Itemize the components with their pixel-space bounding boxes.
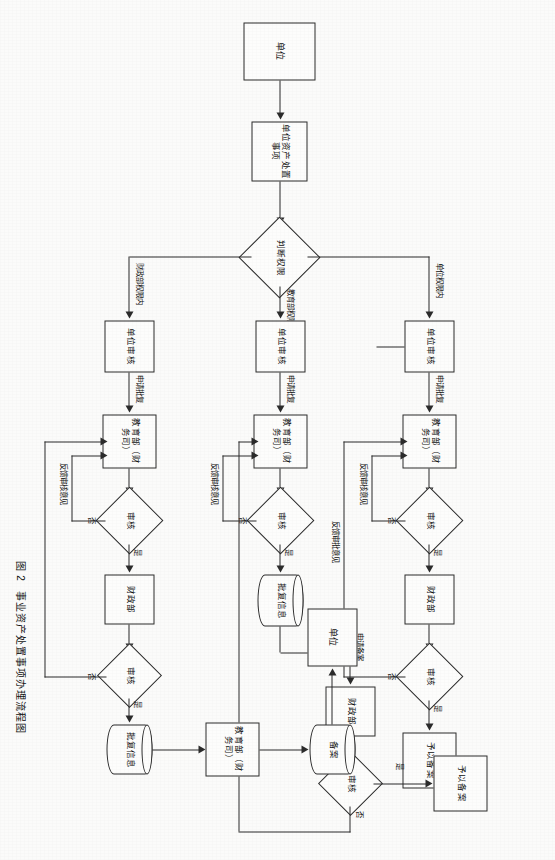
row1-feedback-approval: 反馈审批意见 [330, 520, 341, 563]
row2-label-yes-2: 是 [394, 762, 405, 769]
row3-label-yes-1: 是 [132, 548, 143, 555]
row3-mof: 财政部 [104, 574, 154, 624]
row1-label-yes-1: 是 [432, 548, 443, 555]
row2-edge-apply-approval: 申请批复 [285, 374, 296, 403]
row1-edge-apply-approval: 申请批复 [434, 374, 445, 403]
row2-moe-finance: 教育部（财务司） [253, 414, 307, 468]
row1-feedback-review: 反馈审核意见 [358, 462, 369, 505]
row2-label-yes-1: 是 [283, 548, 294, 555]
branch-label-mof: 财政部权限内 [134, 262, 145, 305]
decision-authority-label: 判断权限 [251, 229, 307, 285]
row1-moe-finance: 教育部（财务司） [402, 414, 456, 468]
row2-label-no-2: 否 [354, 810, 365, 817]
figure-caption-number: 图 2 [14, 560, 25, 581]
row3-moe-finance: 教育部（财务司） [102, 414, 156, 468]
figure-caption-title: 事业资产处置事项办理流程图 [14, 590, 25, 733]
row3-edge-apply-approval: 申请批复 [134, 374, 145, 403]
branch-label-unit: 单位权限内 [434, 262, 445, 298]
row3-label-yes-2: 是 [132, 700, 143, 707]
row3-record-store: 备案 [309, 724, 355, 774]
row1-mof: 财政部 [404, 574, 454, 624]
row2-unit-review: 单位审核 [255, 320, 305, 372]
row3-approval-info: 批复信息 [106, 724, 152, 774]
row3-end-unit: 单位 [307, 608, 357, 666]
row1-label-yes-2: 是 [432, 704, 443, 711]
flowchart-canvas: 单位 单位资产处置事项 判断权限 单位权限内 教育部权限内 财政部权限内 单位审… [0, 0, 555, 860]
row2-feedback-review: 反馈审核意见 [209, 462, 220, 505]
node-start-unit: 单位 [243, 22, 315, 80]
node-start-task: 单位资产处置事项 [251, 121, 307, 181]
row1-unit-review: 单位审核 [404, 320, 454, 372]
row2-grant-record: 予以备案 [433, 755, 487, 811]
row3-moe-finance-2: 教育部（财务司） [205, 722, 259, 776]
figure-caption: 图 2事业资产处置事项办理流程图 [13, 560, 28, 733]
row3-unit-review: 单位审核 [104, 320, 154, 372]
row3-feedback-review: 反馈审核意见 [58, 462, 69, 505]
figure-page: 单位 单位资产处置事项 判断权限 单位权限内 教育部权限内 财政部权限内 单位审… [0, 0, 555, 860]
row2-approval-info: 批复信息 [257, 574, 303, 626]
